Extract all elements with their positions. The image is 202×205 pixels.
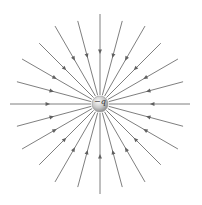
arrow-icon <box>46 102 51 106</box>
arrow-icon <box>98 50 102 55</box>
field-line <box>108 109 178 150</box>
arrow-icon <box>98 154 102 159</box>
charge-label: −q <box>92 97 108 106</box>
field-line <box>55 26 96 96</box>
field-line <box>22 109 92 150</box>
field-line <box>105 112 146 182</box>
field-line <box>55 112 96 182</box>
field-line <box>108 59 178 100</box>
field-line <box>105 26 146 96</box>
field-line <box>22 59 92 100</box>
arrow-icon <box>150 102 155 106</box>
